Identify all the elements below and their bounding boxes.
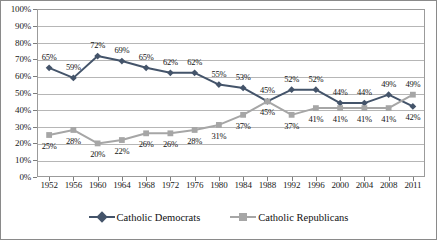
data-point-marker xyxy=(143,64,150,71)
y-tick-label: 0% xyxy=(19,172,31,182)
data-label-republicans: 26% xyxy=(163,139,178,149)
data-point-marker xyxy=(118,58,125,65)
data-label-democrats: 45% xyxy=(260,85,275,95)
data-point-marker xyxy=(264,99,270,105)
y-tick-label: 100% xyxy=(11,4,31,14)
data-label-republicans: 37% xyxy=(284,121,299,131)
x-tick-mark xyxy=(243,177,244,181)
data-label-republicans: 41% xyxy=(309,114,324,124)
series-line-diamond xyxy=(49,56,413,106)
x-tick-label: 1968 xyxy=(138,180,155,190)
data-label-republicans: 25% xyxy=(42,141,57,151)
data-label-republicans: 26% xyxy=(139,139,154,149)
data-label-democrats: 69% xyxy=(115,45,130,55)
chart-legend: Catholic DemocratsCatholic Republicans xyxy=(1,206,436,228)
y-tick-label: 20% xyxy=(15,138,31,148)
data-point-marker xyxy=(70,127,76,133)
x-tick-label: 1964 xyxy=(113,180,130,190)
y-tick-mark xyxy=(33,26,37,27)
x-tick-label: 1980 xyxy=(210,180,227,190)
x-tick-label: 1952 xyxy=(41,180,58,190)
y-tick-label: 40% xyxy=(15,105,31,115)
data-label-democrats: 53% xyxy=(236,72,251,82)
x-tick-label: 2004 xyxy=(356,180,373,190)
x-tick-mark xyxy=(267,177,268,181)
data-label-democrats: 55% xyxy=(212,69,227,79)
legend-label: Catholic Republicans xyxy=(258,212,348,223)
x-tick-label: 2008 xyxy=(380,180,397,190)
data-point-marker xyxy=(192,127,198,133)
data-point-marker xyxy=(288,86,295,93)
data-point-marker xyxy=(409,103,416,110)
data-point-marker xyxy=(167,69,174,76)
data-point-marker xyxy=(46,132,52,138)
x-tick-mark xyxy=(340,177,341,181)
data-label-democrats: 52% xyxy=(309,74,324,84)
y-tick-mark xyxy=(33,143,37,144)
data-label-democrats: 49% xyxy=(381,79,396,89)
y-tick-mark xyxy=(33,76,37,77)
data-label-democrats: 65% xyxy=(139,52,154,62)
x-tick-mark xyxy=(195,177,196,181)
data-label-republicans: 28% xyxy=(187,136,202,146)
data-label-republicans: 37% xyxy=(236,121,251,131)
data-point-marker xyxy=(46,64,53,71)
data-point-marker xyxy=(143,130,149,136)
legend-swatch-icon xyxy=(89,212,115,222)
x-tick-label: 1976 xyxy=(186,180,203,190)
y-tick-mark xyxy=(33,127,37,128)
data-label-republicans: 41% xyxy=(357,114,372,124)
x-tick-mark xyxy=(364,177,365,181)
data-label-democrats: 65% xyxy=(42,52,57,62)
y-tick-label: 50% xyxy=(15,88,31,98)
data-point-marker xyxy=(337,105,343,111)
x-tick-mark xyxy=(49,177,50,181)
y-tick-label: 90% xyxy=(15,21,31,31)
y-tick-mark xyxy=(33,110,37,111)
x-tick-mark xyxy=(122,177,123,181)
legend-item[interactable]: Catholic Democrats xyxy=(89,212,201,223)
data-point-marker xyxy=(313,105,319,111)
data-point-marker xyxy=(119,137,125,143)
y-tick-label: 70% xyxy=(15,54,31,64)
y-axis: 0%10%20%30%40%50%60%70%80%90%100% xyxy=(1,9,34,177)
data-point-marker xyxy=(385,91,392,98)
x-tick-mark xyxy=(98,177,99,181)
data-label-democrats: 72% xyxy=(90,40,105,50)
data-label-republicans: 41% xyxy=(333,114,348,124)
x-tick-label: 1960 xyxy=(89,180,106,190)
x-tick-label: 2000 xyxy=(332,180,349,190)
x-tick-mark xyxy=(389,177,390,181)
data-label-democrats: 62% xyxy=(163,57,178,67)
data-label-democrats: 44% xyxy=(357,87,372,97)
x-tick-mark xyxy=(146,177,147,181)
x-tick-mark xyxy=(73,177,74,181)
y-tick-mark xyxy=(33,43,37,44)
y-tick-mark xyxy=(33,9,37,10)
x-tick-label: 1992 xyxy=(283,180,300,190)
data-label-republicans: 22% xyxy=(115,146,130,156)
data-label-republicans: 41% xyxy=(381,114,396,124)
data-label-republicans: 31% xyxy=(212,131,227,141)
data-label-democrats: 44% xyxy=(333,87,348,97)
y-tick-mark xyxy=(33,177,37,178)
x-tick-label: 1988 xyxy=(259,180,276,190)
data-label-republicans: 49% xyxy=(406,79,421,89)
x-tick-label: 1996 xyxy=(307,180,324,190)
data-point-marker xyxy=(386,105,392,111)
x-tick-label: 1984 xyxy=(235,180,252,190)
x-tick-label: 2011 xyxy=(404,180,421,190)
data-label-republicans: 45% xyxy=(260,107,275,117)
legend-swatch-icon xyxy=(230,212,256,222)
y-tick-mark xyxy=(33,160,37,161)
data-label-democrats: 52% xyxy=(284,74,299,84)
legend-item[interactable]: Catholic Republicans xyxy=(230,212,348,223)
y-tick-label: 30% xyxy=(15,122,31,132)
x-tick-mark xyxy=(170,177,171,181)
y-tick-label: 80% xyxy=(15,38,31,48)
data-point-marker xyxy=(410,92,416,98)
data-point-marker xyxy=(216,122,222,128)
data-point-marker xyxy=(289,112,295,118)
chart-container: 0%10%20%30%40%50%60%70%80%90%100% 195219… xyxy=(0,0,437,240)
x-tick-label: 1956 xyxy=(65,180,82,190)
